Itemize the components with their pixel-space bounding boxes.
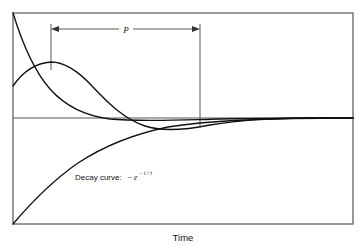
figure-container: P Decay curve: − e − t / τ Time [0, 0, 362, 246]
decay-curve-label-prefix: Decay curve: [75, 173, 122, 182]
decay-curve-label-exponent-denominator: τ [150, 170, 153, 176]
decay-curve-label-base: e [134, 173, 138, 182]
decay-curve-label-minus: − [127, 173, 132, 182]
period-label: P [122, 25, 129, 35]
decay-curve-label-exponent-slash: / [146, 170, 149, 176]
period-arrow-head-right-icon [192, 26, 200, 32]
period-arrow-head-left-icon [51, 26, 59, 32]
decay-curve-label-exponent-numerator: t [144, 170, 146, 176]
x-axis-caption: Time [173, 232, 194, 243]
decay-curve-plot: P Decay curve: − e − t / τ Time [0, 0, 362, 246]
curve-negative-decay [13, 118, 353, 224]
decay-curve-label-exponent-minus: − [139, 170, 143, 176]
